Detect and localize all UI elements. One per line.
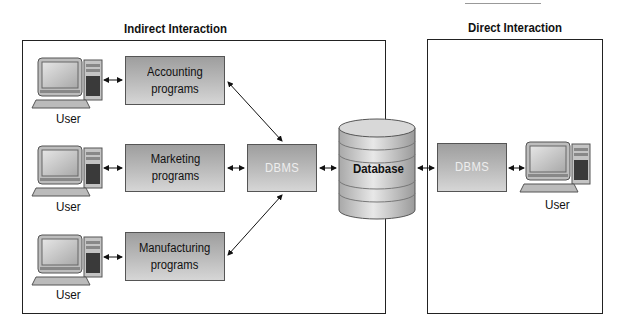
dbms-left-label: DBMS — [265, 160, 299, 177]
database-label: Database — [353, 161, 404, 176]
marketing-programs-label: Marketing programs — [150, 151, 199, 185]
user-label-direct: User — [545, 197, 570, 212]
user-label-marketing: User — [56, 199, 81, 214]
user-label-accounting: User — [56, 111, 81, 126]
computer-icon — [520, 142, 590, 192]
manufacturing-programs-box: Manufacturing programs — [125, 232, 225, 281]
computer-icon — [32, 146, 102, 196]
dbms-right-label: DBMS — [455, 159, 489, 176]
dbms-right-box: DBMS — [437, 143, 507, 192]
user-label-manufacturing: User — [56, 287, 81, 302]
computer-icon — [32, 58, 102, 108]
computer-icon — [32, 235, 102, 285]
accounting-programs-label: Accounting programs — [147, 64, 203, 98]
manufacturing-programs-label: Manufacturing programs — [139, 240, 210, 274]
marketing-programs-box: Marketing programs — [125, 144, 225, 192]
accounting-programs-box: Accounting programs — [125, 56, 225, 105]
dbms-left-box: DBMS — [247, 144, 317, 192]
